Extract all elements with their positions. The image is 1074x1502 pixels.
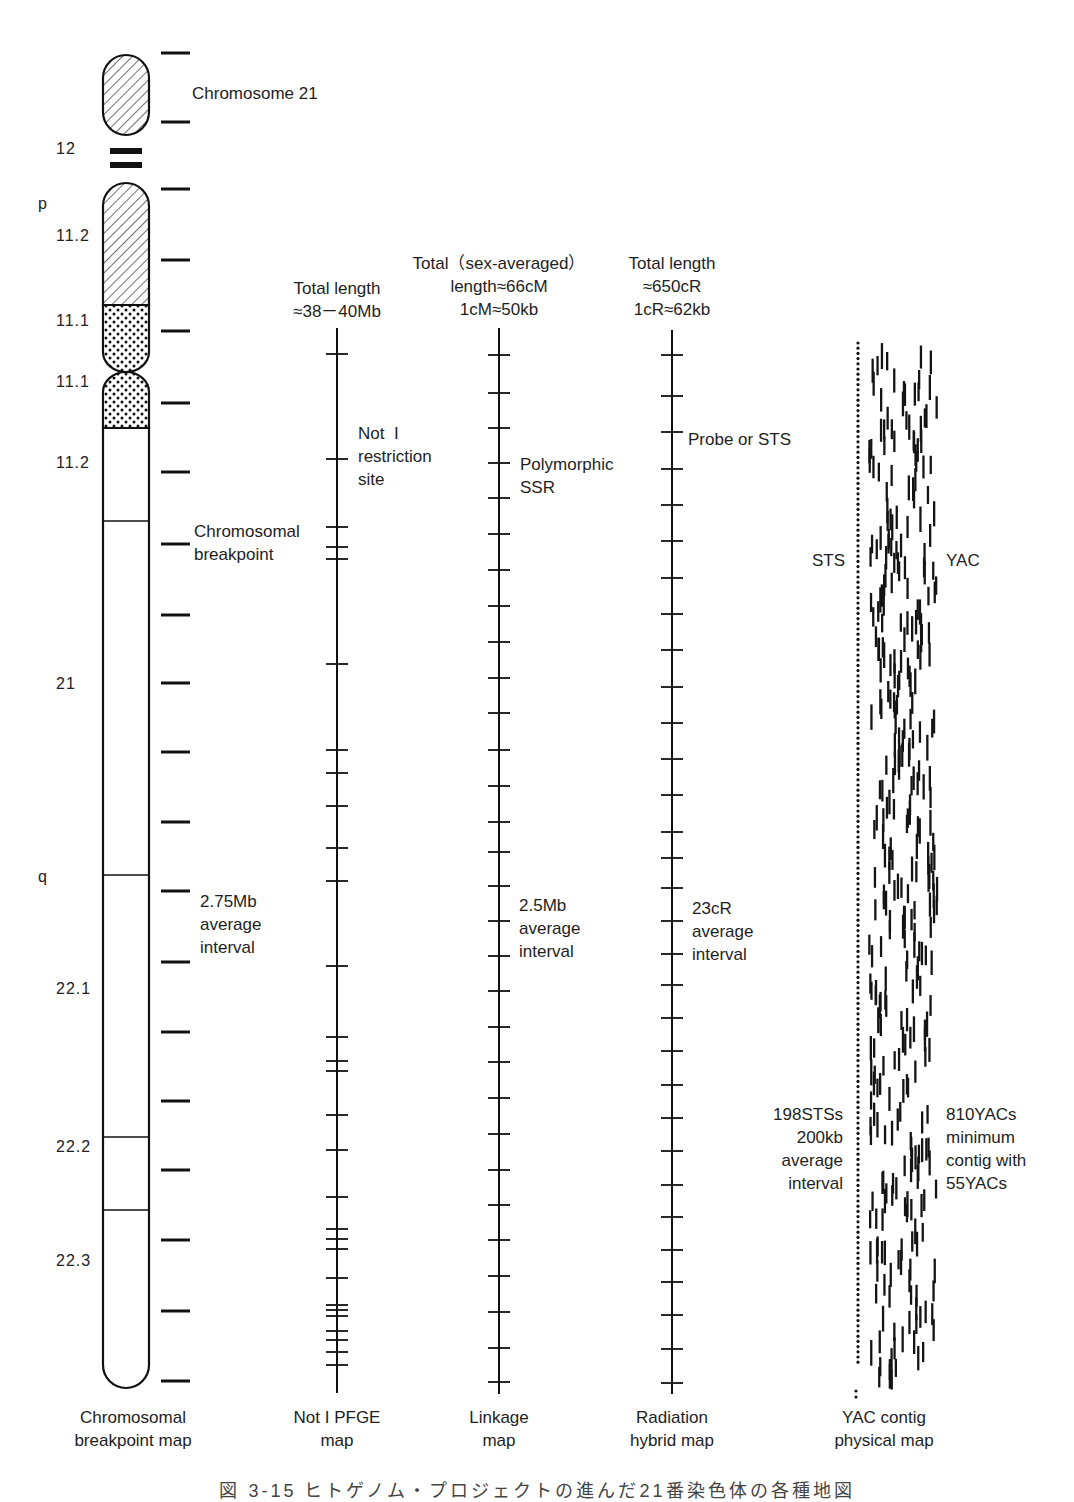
sts-dot <box>856 383 859 386</box>
sts-dot <box>856 1106 859 1109</box>
sts-dot <box>856 726 859 729</box>
band-label: 11.2 <box>56 454 90 472</box>
yac-clone-dash <box>883 574 885 596</box>
yac-clone-dash <box>895 708 897 734</box>
sts-dot <box>856 856 859 859</box>
yac-clone-dash <box>908 743 910 767</box>
yac-clone-dash <box>903 627 905 652</box>
yac-clone-dash <box>875 1284 877 1304</box>
sts-dot <box>856 1121 859 1124</box>
yac-clone-dash <box>913 1016 915 1042</box>
sts-dot <box>856 565 859 568</box>
yac-clone-dash <box>880 419 882 442</box>
yac-clone-dash <box>929 524 931 547</box>
sts-dot <box>856 877 859 880</box>
map-breakpoint <box>161 53 190 1381</box>
sts-dot <box>856 960 859 963</box>
yac-clone-dash <box>927 486 929 504</box>
band-label: 21 <box>56 675 76 693</box>
annotation-breakpoint: 2.75Mb average interval <box>200 890 261 959</box>
sts-dot <box>856 627 859 630</box>
yac-clone-dash <box>914 669 916 695</box>
sts-dot <box>856 924 859 927</box>
yac-clone-dash <box>917 640 919 659</box>
sts-dot <box>856 1324 859 1327</box>
yac-clone-dash <box>889 920 891 940</box>
annotation-linkage: Polymorphic SSR <box>520 453 614 499</box>
yac-clone-dash <box>900 1250 902 1275</box>
yac-clone-dash <box>902 1079 904 1103</box>
yac-clone-dash <box>885 891 887 916</box>
sts-dot <box>856 731 859 734</box>
arm-label-p: p <box>38 195 48 213</box>
sts-dot <box>856 1158 859 1161</box>
yac-clone-dash <box>929 1150 931 1175</box>
map-noti-pfge <box>326 328 348 1393</box>
sts-dot <box>856 669 859 672</box>
yac-clone-dash <box>898 1048 900 1071</box>
yac-label: YAC <box>946 549 980 572</box>
yac-clone-dash <box>929 375 931 400</box>
yac-clone-dash <box>883 437 885 456</box>
yac-clone-dash <box>913 901 915 919</box>
yac-clone-dash <box>934 1259 936 1284</box>
band-label: 11.1 <box>56 373 90 391</box>
yac-clone-dash <box>911 616 913 641</box>
yac-clone-dash <box>875 1209 877 1229</box>
sts-dot <box>856 388 859 391</box>
yac-clone-dash <box>869 448 871 473</box>
sts-dot <box>856 1111 859 1114</box>
sts-dot <box>856 378 859 381</box>
yac-clone-dash <box>876 1079 878 1098</box>
sts-dot <box>856 1168 859 1171</box>
sts-dot <box>856 893 859 896</box>
yac-clone-dash <box>869 1210 871 1228</box>
yac-clone-dash <box>930 917 932 938</box>
yac-clone-dash <box>872 607 874 627</box>
yac-clone-dash <box>904 1156 906 1177</box>
band-label: 22.3 <box>56 1252 91 1270</box>
yac-clone-dash <box>925 946 927 966</box>
map-linkage <box>488 328 510 1394</box>
band-label: 11.2 <box>56 227 90 245</box>
yac-clone-dash <box>909 709 911 729</box>
sts-dot <box>856 804 859 807</box>
yac-clone-dash <box>922 1223 924 1242</box>
sts-dot <box>856 1043 859 1046</box>
yac-clone-dash <box>904 556 906 579</box>
sts-dot <box>856 757 859 760</box>
band-p11-1-upper <box>103 305 149 372</box>
yac-clone-dash <box>883 595 885 616</box>
yac-clone-dash <box>884 1125 886 1144</box>
yac-clone-dash <box>915 861 917 882</box>
annotation-breakpoint: Chromosomal breakpoint <box>194 520 300 566</box>
yac-clone-dash <box>904 383 906 406</box>
yac-clone-dash <box>881 343 883 369</box>
sts-dot <box>856 971 859 974</box>
yac-clone-dash <box>902 1027 904 1053</box>
yac-clone-dash <box>891 465 893 486</box>
yac-clone-dash <box>908 475 910 500</box>
yac-clone-dash <box>887 534 889 553</box>
sts-dot <box>856 1288 859 1291</box>
yac-clone-dash <box>893 880 895 901</box>
yac-clone-dash <box>919 1306 921 1328</box>
yac-clone-dash <box>910 1285 912 1304</box>
sts-dot <box>856 601 859 604</box>
sts-dot <box>856 867 859 870</box>
annotation-radiation-hybrid: 23cR average interval <box>692 897 753 966</box>
yac-clone-dash <box>888 790 890 815</box>
yac-clone-dash <box>881 780 883 802</box>
sts-dot <box>856 586 859 589</box>
sts-dot <box>856 721 859 724</box>
yac-clone-dash <box>914 468 916 491</box>
yac-clone-dash <box>888 1087 890 1111</box>
yac-clone-dash <box>923 1189 925 1211</box>
sts-dot <box>856 1059 859 1062</box>
yac-clone-dash <box>924 561 926 584</box>
sts-dot <box>856 913 859 916</box>
yac-clone-dash <box>881 1241 883 1264</box>
sts-dot <box>856 1147 859 1150</box>
yac-clone-dash <box>885 756 887 775</box>
yac-clone-dash <box>870 1091 872 1109</box>
